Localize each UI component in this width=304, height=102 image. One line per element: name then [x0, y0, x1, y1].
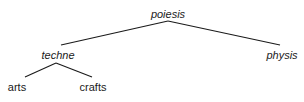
edge-techne-arts [25, 63, 56, 77]
node-poiesis: poiesis [151, 8, 185, 20]
edge-poiesis-techne [61, 21, 168, 45]
edge-techne-crafts [56, 63, 92, 77]
node-techne: techne [41, 49, 74, 61]
node-crafts: crafts [80, 81, 107, 93]
edge-poiesis-physis [168, 21, 280, 45]
node-physis: physis [266, 49, 297, 61]
node-arts: arts [8, 81, 26, 93]
